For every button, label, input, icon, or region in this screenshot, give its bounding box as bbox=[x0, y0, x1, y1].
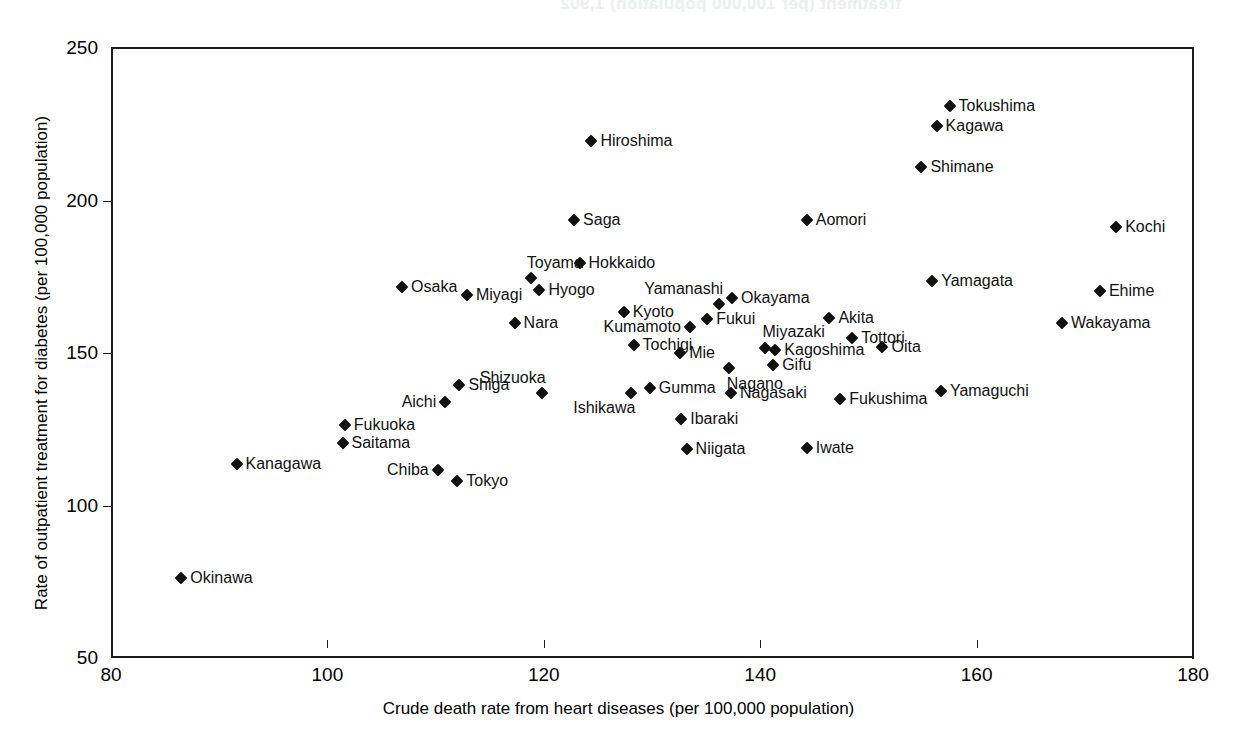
x-tick-label: 80 bbox=[100, 664, 121, 686]
x-tick-label: 120 bbox=[528, 664, 560, 686]
data-point-label: Akita bbox=[838, 310, 874, 326]
data-point-label: Miyagi bbox=[476, 287, 522, 303]
x-tick-mark bbox=[977, 640, 978, 648]
data-point-label: Hyogo bbox=[548, 282, 594, 298]
data-point-label: Okinawa bbox=[190, 570, 252, 586]
x-tick-label: 180 bbox=[1177, 664, 1209, 686]
data-point-label: Iwate bbox=[816, 440, 854, 456]
x-tick-label: 100 bbox=[312, 664, 344, 686]
y-tick-mark bbox=[103, 201, 111, 202]
data-point-label: Yamaguchi bbox=[950, 383, 1029, 399]
y-tick-mark bbox=[103, 353, 111, 354]
data-point-label: Ibaraki bbox=[690, 411, 738, 427]
data-point-label: Osaka bbox=[411, 279, 457, 295]
data-point-label: Fukushima bbox=[849, 391, 927, 407]
plot-border-top bbox=[111, 47, 1194, 49]
x-tick-label: 160 bbox=[961, 664, 993, 686]
data-point-label: Gumma bbox=[659, 380, 716, 396]
data-point-label: Saitama bbox=[352, 435, 411, 451]
scatter-chart: treatment (per 100,000 population) 1,902… bbox=[0, 0, 1237, 755]
data-point-label: Fukuoka bbox=[354, 417, 415, 433]
data-point-label: Oita bbox=[891, 339, 920, 355]
data-point-label: Wakayama bbox=[1071, 315, 1150, 331]
data-point-label: Kochi bbox=[1125, 219, 1165, 235]
data-point-label: Niigata bbox=[696, 441, 746, 457]
data-point-label: Yamagata bbox=[941, 273, 1013, 289]
x-tick-mark bbox=[327, 640, 328, 648]
y-axis-title: Rate of outpatient treatment for diabete… bbox=[32, 53, 52, 673]
data-point-label: Hokkaido bbox=[589, 255, 656, 271]
data-point-label: Gifu bbox=[782, 357, 811, 373]
ghost-bleedthrough-text-1: treatment (per 100,000 population) 1,902 bbox=[560, 0, 901, 14]
data-point-label: Miyazaki bbox=[763, 324, 825, 340]
data-point-label: Shimane bbox=[930, 159, 993, 175]
data-point-label: Tokyo bbox=[466, 473, 508, 489]
data-point-label: Yamanashi bbox=[644, 281, 723, 297]
x-tick-mark bbox=[760, 640, 761, 648]
data-point-label: Okayama bbox=[741, 290, 809, 306]
x-tick-mark bbox=[544, 640, 545, 648]
data-point-label: Mie bbox=[689, 345, 715, 361]
data-point-label: Aomori bbox=[816, 212, 867, 228]
data-point-label: Hiroshima bbox=[600, 133, 672, 149]
y-tick-mark bbox=[103, 506, 111, 507]
data-point-label: Toyama bbox=[527, 255, 583, 271]
data-point-label: Fukui bbox=[716, 311, 755, 327]
x-axis-title: Crude death rate from heart diseases (pe… bbox=[0, 699, 1237, 719]
data-point-label: Kumamoto bbox=[603, 319, 680, 335]
data-point-label: Kagawa bbox=[946, 118, 1004, 134]
data-point-label: Kanagawa bbox=[246, 456, 322, 472]
data-point-label: Nara bbox=[524, 315, 559, 331]
data-point-label: Shizuoka bbox=[480, 370, 546, 386]
data-point-label: Saga bbox=[583, 212, 620, 228]
plot-border-right bbox=[1192, 47, 1194, 659]
data-point-label: Ehime bbox=[1109, 283, 1154, 299]
data-point-label: Aichi bbox=[402, 394, 437, 410]
data-point-label: Nagasaki bbox=[740, 385, 807, 401]
data-point-label: Tokushima bbox=[959, 98, 1035, 114]
data-point-label: Chiba bbox=[387, 462, 429, 478]
x-tick-label: 140 bbox=[744, 664, 776, 686]
data-point-label: Ishikawa bbox=[573, 400, 635, 416]
